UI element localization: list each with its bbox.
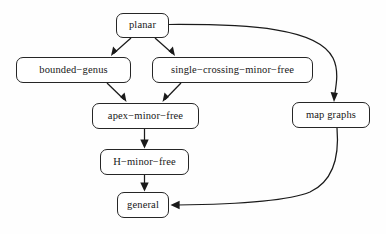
- node-general-label: general: [127, 200, 159, 211]
- graph-class-hierarchy-diagram: planar bounded−genus single−crossing−min…: [0, 0, 386, 234]
- node-apex-minor-free-label: apex−minor−free: [108, 111, 183, 122]
- node-h-minor-free[interactable]: H−minor−free: [100, 149, 189, 175]
- node-bounded-genus[interactable]: bounded−genus: [16, 57, 131, 83]
- edge-planar-to-bounded-genus: [111, 38, 131, 56]
- edge-bounded-genus-to-apex-minor-free: [107, 83, 127, 102]
- node-apex-minor-free[interactable]: apex−minor−free: [92, 103, 199, 129]
- edge-h-minor-free-to-general: [140, 175, 148, 192]
- edge-map-graphs-to-general: [171, 128, 338, 209]
- node-map-graphs[interactable]: map graphs: [292, 102, 370, 128]
- node-planar-label: planar: [129, 20, 156, 31]
- node-single-crossing-minor-free[interactable]: single−crossing−minor−free: [152, 57, 313, 83]
- node-single-crossing-minor-free-label: single−crossing−minor−free: [171, 65, 294, 76]
- node-map-graphs-label: map graphs: [306, 110, 356, 121]
- edge-planar-to-single-crossing-minor-free: [155, 38, 175, 56]
- node-bounded-genus-label: bounded−genus: [39, 65, 108, 76]
- node-general[interactable]: general: [117, 192, 169, 218]
- node-h-minor-free-label: H−minor−free: [113, 157, 176, 168]
- edge-single-crossing-minor-free-to-apex-minor-free: [163, 83, 182, 102]
- node-planar[interactable]: planar: [116, 13, 169, 38]
- edge-apex-minor-free-to-h-minor-free: [140, 129, 148, 149]
